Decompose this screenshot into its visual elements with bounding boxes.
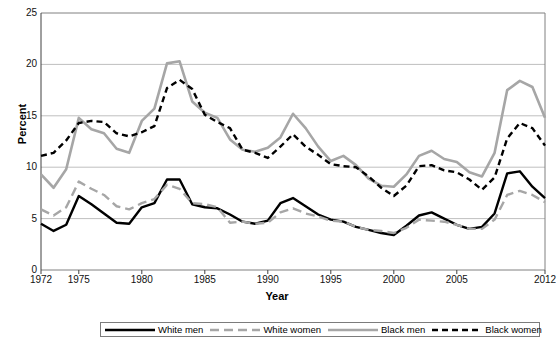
x-tick-label: 1980 <box>131 274 153 285</box>
series-line-black-men <box>41 61 545 187</box>
legend-label: White women <box>263 324 325 335</box>
legend-swatch-icon <box>431 325 483 334</box>
x-tick-label: 1985 <box>194 274 216 285</box>
legend-item-black-women[interactable]: Black women <box>431 324 546 335</box>
y-tick-label: 25 <box>3 7 37 18</box>
legend-swatch-icon <box>104 325 156 334</box>
x-tick-label: 2005 <box>446 274 468 285</box>
x-tick-label: 1995 <box>320 274 342 285</box>
series-line-black-women <box>41 80 545 196</box>
legend-label: Black men <box>381 324 429 335</box>
legend-item-white-women[interactable]: White women <box>209 324 325 335</box>
legend-swatch-icon <box>209 325 261 334</box>
x-tick-label: 1972 <box>30 274 52 285</box>
legend-swatch-icon <box>327 325 379 334</box>
x-tick-label: 1990 <box>257 274 279 285</box>
series-line-white-women <box>41 182 545 233</box>
y-tick-label: 5 <box>3 213 37 224</box>
y-tick-label: 20 <box>3 58 37 69</box>
x-tick-label: 2000 <box>383 274 405 285</box>
x-tick-label: 2012 <box>534 274 556 285</box>
x-tick-label: 1975 <box>68 274 90 285</box>
x-axis-title: Year <box>0 290 554 302</box>
legend-item-black-men[interactable]: Black men <box>327 324 429 335</box>
legend-item-white-men[interactable]: White men <box>104 324 207 335</box>
y-axis-title: Percent <box>16 84 28 164</box>
legend-label: Black women <box>485 324 546 335</box>
legend-label: White men <box>158 324 207 335</box>
y-tick-label: 10 <box>3 161 37 172</box>
chart-legend: White menWhite womenBlack menBlack women <box>100 322 540 337</box>
y-tick-label: 15 <box>3 110 37 121</box>
